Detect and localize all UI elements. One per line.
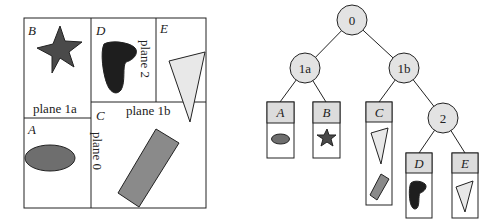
svg-text:0: 0 — [349, 13, 356, 28]
svg-text:1a: 1a — [299, 61, 312, 76]
plane-0-label: plane 0 — [90, 132, 105, 170]
tree-leaf-e: E — [452, 153, 478, 218]
region-label-c: C — [96, 108, 105, 123]
ellipse-shape-a — [25, 145, 75, 171]
region-label-a: A — [27, 122, 36, 137]
svg-text:E: E — [460, 156, 469, 171]
plane-1b-label: plane 1b — [126, 103, 170, 118]
tree-node-1a: 1a — [290, 53, 320, 83]
blob-shape-d — [102, 42, 136, 93]
svg-text:A: A — [276, 105, 285, 120]
svg-text:B: B — [323, 105, 331, 120]
svg-text:C: C — [375, 105, 384, 120]
svg-text:D: D — [413, 156, 424, 171]
region-label-b: B — [28, 23, 36, 38]
svg-text:2: 2 — [440, 111, 447, 126]
rectangle-shape-c — [118, 129, 179, 207]
tree-node-2: 2 — [428, 103, 458, 133]
tree-node-root: 0 — [337, 5, 367, 35]
tree-leaf-d: D — [406, 153, 432, 218]
plane-2-label: plane 2 — [138, 40, 153, 78]
star-shape-b — [37, 26, 82, 73]
tree-leaf-b: B — [313, 102, 340, 158]
svg-text:1b: 1b — [398, 61, 411, 76]
plane-1a-label: plane 1a — [33, 101, 77, 116]
region-label-e: E — [159, 21, 168, 36]
bsp-figure: B D E A C plane 1a plane 1b plane 2 plan… — [0, 0, 498, 223]
tree-leaf-a: A — [267, 102, 294, 158]
tree-leaf-c: C — [366, 102, 392, 205]
tree-node-1b: 1b — [389, 53, 419, 83]
triangle-shape-e — [169, 52, 205, 122]
region-label-d: D — [95, 23, 106, 38]
